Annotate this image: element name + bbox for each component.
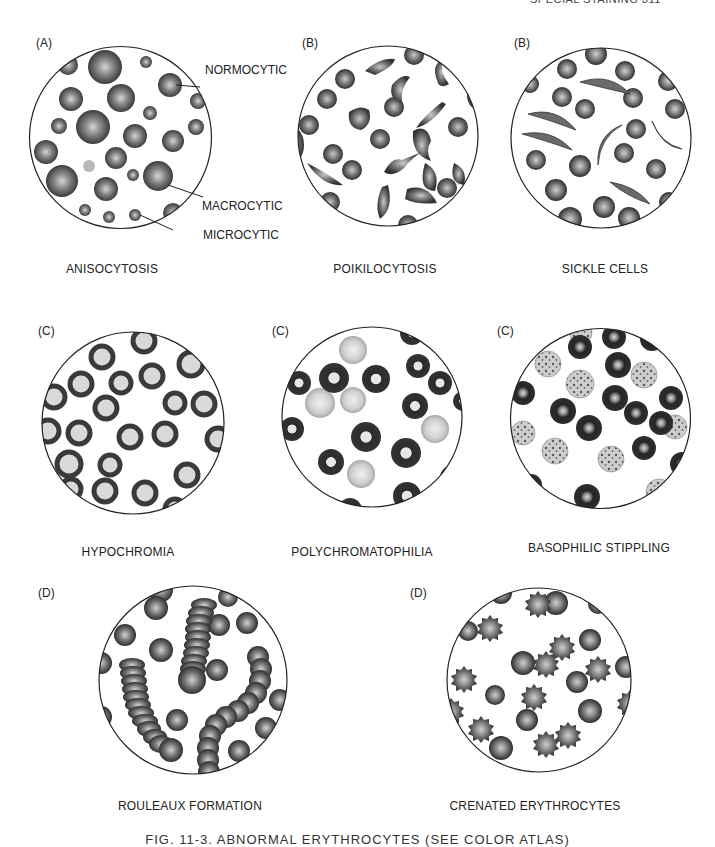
basophilic-stippling-field xyxy=(509,327,692,510)
panel-letter-d2: (D) xyxy=(410,586,427,600)
crenated-erythrocytes-field xyxy=(446,587,632,773)
panel-title-poikilocytosis: POIKILOCYTOSIS xyxy=(333,262,436,276)
rouleaux-formation-field xyxy=(98,585,288,775)
panel-title-crenated-erythrocytes: CRENATED ERYTHROCYTES xyxy=(449,799,620,813)
polychromatophilia-field xyxy=(281,326,463,508)
callout-normocytic: NORMOCYTIC xyxy=(205,63,287,77)
sickle-cells-field xyxy=(510,47,692,229)
callout-macrocytic: MACROCYTIC xyxy=(202,199,283,213)
poikilocytosis-field xyxy=(297,45,479,227)
figure-caption: FIG. 11-3. ABNORMAL ERYTHROCYTES (SEE CO… xyxy=(145,832,569,847)
anisocytosis-field xyxy=(28,45,213,230)
panel-letter-d1: (D) xyxy=(38,586,55,600)
panel-title-basophilic-stippling: BASOPHILIC STIPPLING xyxy=(528,541,670,555)
callout-microcytic: MICROCYTIC xyxy=(203,228,279,242)
panel-title-anisocytosis: ANISOCYTOSIS xyxy=(66,262,158,276)
panel-title-polychromatophilia: POLYCHROMATOPHILIA xyxy=(291,545,433,559)
running-head: SPECIAL STAINING 311 xyxy=(530,0,661,5)
panel-title-hypochromia: HYPOCHROMIA xyxy=(82,545,175,559)
panel-title-rouleaux-formation: ROULEAUX FORMATION xyxy=(118,799,262,813)
panel-title-sickle-cells: SICKLE CELLS xyxy=(562,262,648,276)
hypochromia-field xyxy=(41,331,225,515)
